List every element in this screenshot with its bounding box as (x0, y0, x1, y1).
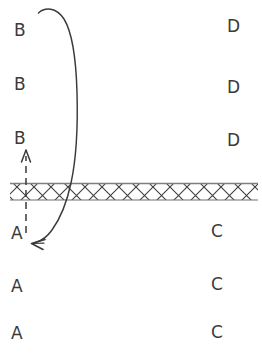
label-c-1: C (211, 223, 223, 240)
label-c-2: C (211, 276, 223, 293)
label-b-1: B (14, 22, 26, 39)
label-a-3: A (11, 325, 23, 342)
diagram-canvas: B D B D B D A C A C A C (0, 0, 262, 356)
label-a-2: A (11, 278, 23, 295)
label-b-3: B (14, 130, 26, 147)
label-d-2: D (227, 79, 241, 96)
arrow-layer (0, 0, 262, 356)
arrowhead-down-left (32, 240, 46, 250)
label-b-2: B (14, 76, 26, 93)
dashed-upward-arrow (22, 150, 31, 233)
label-a-1: A (11, 225, 23, 242)
curved-transport-arrow (32, 9, 78, 249)
label-d-1: D (227, 18, 241, 35)
label-c-3: C (211, 324, 223, 341)
label-d-3: D (227, 132, 241, 149)
